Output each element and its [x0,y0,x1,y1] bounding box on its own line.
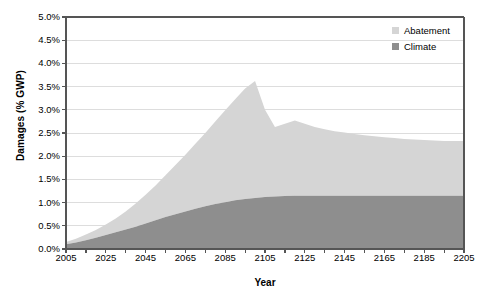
x-tick-label: 2185 [404,253,444,263]
x-axis-title: Year [66,277,464,288]
y-tick-label: 3.0% [14,105,60,115]
y-tick-label: 3.5% [14,82,60,92]
y-tick-label: 2.0% [14,151,60,161]
x-tick-label: 2205 [444,253,480,263]
chart-legend: AbatementClimate [392,22,450,54]
x-tick-label: 2085 [205,253,245,263]
y-tick-label: 5.0% [14,12,60,22]
legend-item: Abatement [392,22,450,38]
y-tick-label: 1.5% [14,174,60,184]
x-tick-label: 2105 [245,253,285,263]
legend-swatch-icon [392,27,399,34]
y-tick-label: 2.5% [14,128,60,138]
legend-item: Climate [392,38,450,54]
legend-label: Abatement [404,25,450,36]
x-tick-label: 2045 [126,253,166,263]
x-tick-label: 2125 [285,253,325,263]
y-tick-label: 0.5% [14,221,60,231]
stacked-area-chart: Damages (% GWP) Year 0.0%0.5%1.0%1.5%2.0… [0,0,480,302]
legend-swatch-icon [392,43,399,50]
x-tick-label: 2025 [86,253,126,263]
x-tick-label: 2165 [364,253,404,263]
x-tick-label: 2005 [46,253,86,263]
y-tick-label: 4.5% [14,35,60,45]
legend-label: Climate [404,41,436,52]
y-tick-label: 1.0% [14,198,60,208]
x-tick-label: 2065 [165,253,205,263]
x-tick-label: 2145 [325,253,365,263]
y-tick-label: 4.0% [14,58,60,68]
